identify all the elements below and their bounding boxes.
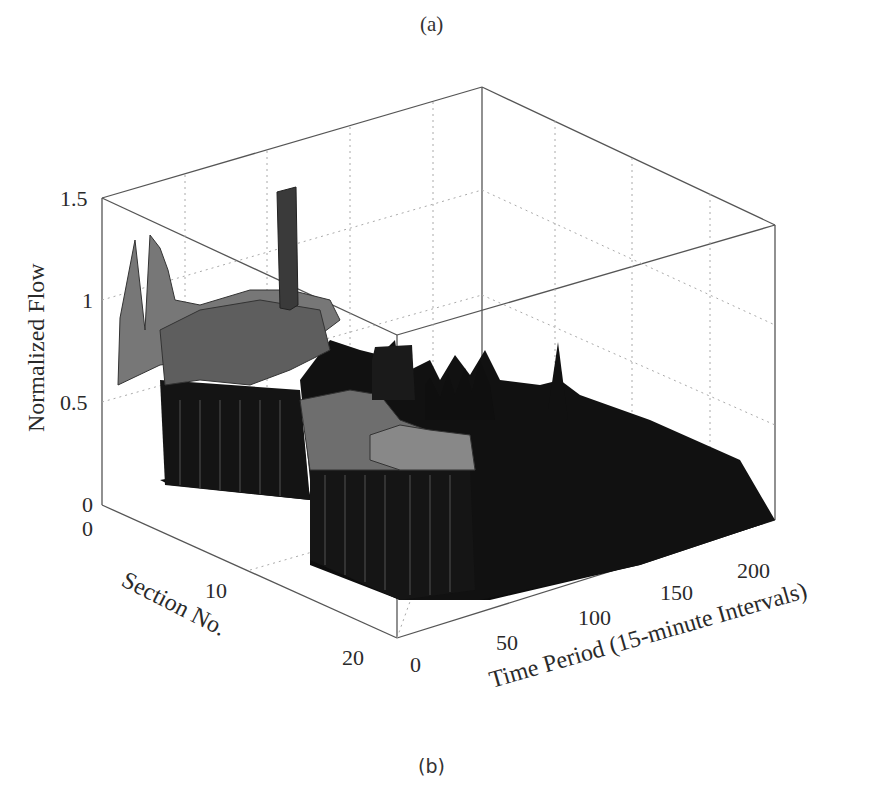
y-tick: 20	[342, 645, 364, 670]
z-axis: 1.5 1 0.5 0 Normalized Flow	[23, 186, 93, 517]
y-tick: 10	[205, 578, 227, 603]
surface-mesh	[118, 187, 775, 600]
z-tick: 0.5	[60, 390, 88, 415]
z-axis-label: Normalized Flow	[23, 263, 49, 432]
x-tick: 150	[660, 580, 693, 605]
y-tick: 0	[82, 516, 93, 541]
x-tick: 100	[578, 605, 611, 630]
z-tick: 1	[82, 288, 93, 313]
x-tick: 200	[737, 558, 770, 583]
z-tick: 1.5	[60, 186, 88, 211]
surface-plot: 1.5 1 0.5 0 Normalized Flow 0 10 20 Sect…	[0, 0, 875, 791]
z-tick: 0	[82, 492, 93, 517]
x-tick: 0	[410, 652, 421, 677]
figure-caption-b: (b)	[418, 755, 445, 777]
x-tick: 50	[496, 630, 518, 655]
